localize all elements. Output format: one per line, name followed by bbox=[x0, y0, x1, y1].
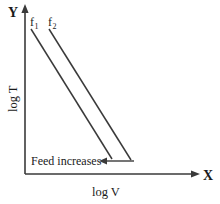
x-axis-end-label: X bbox=[203, 168, 213, 183]
y-axis-end-label: Y bbox=[8, 5, 18, 20]
y-axis-title: log T bbox=[6, 85, 20, 112]
curve-label-f1-subscript: 1 bbox=[35, 22, 39, 31]
curve-line-f1 bbox=[31, 29, 112, 159]
y-axis-arrowhead-icon bbox=[21, 4, 28, 13]
curve-label-f2: f2 bbox=[48, 15, 57, 31]
annotation-feed-increases-label: Feed increases bbox=[31, 154, 102, 168]
taylor-tool-life-diagram: f1 f2 Feed increases Y X log T log V bbox=[0, 0, 220, 204]
x-axis-arrowhead-icon bbox=[191, 170, 200, 177]
figure-container: f1 f2 Feed increases Y X log T log V bbox=[0, 0, 220, 204]
curve-label-f1-base: f bbox=[30, 15, 34, 29]
curve-line-f2 bbox=[49, 29, 131, 160]
curve-label-f2-base: f bbox=[48, 15, 52, 29]
x-axis-title: log V bbox=[92, 185, 120, 199]
curve-label-f1: f1 bbox=[30, 15, 39, 31]
curve-label-f2-subscript: 2 bbox=[53, 22, 57, 31]
